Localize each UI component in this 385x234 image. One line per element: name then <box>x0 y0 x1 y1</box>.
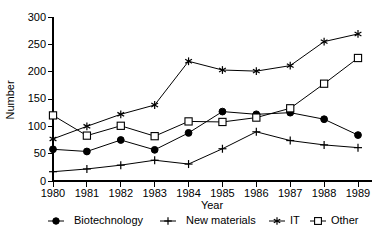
series-line-3 <box>53 58 358 136</box>
datapoint-0-9-marker-circle <box>355 132 362 139</box>
legend-item-new-materials[interactable]: New materials <box>160 214 256 226</box>
datapoint-2-8-marker-star <box>321 38 328 46</box>
datapoint-1-7-marker-plus <box>286 137 294 145</box>
datapoint-3-2-marker-square <box>117 122 124 129</box>
legend-marker-0-marker-circle <box>53 218 59 224</box>
datapoint-2-1-marker-star <box>84 122 91 130</box>
datapoint-1-4-marker-plus <box>185 160 193 168</box>
datapoint-1-1-marker-plus <box>83 165 91 173</box>
series-line-2 <box>53 34 358 139</box>
legend-label-1: New materials <box>186 214 256 226</box>
series-layer <box>49 30 362 176</box>
datapoint-0-4-marker-circle <box>185 129 192 136</box>
x-tick-label-1989: 1989 <box>346 187 370 199</box>
chart-container: Number 300 250 200 150 100 50 0 1980 19 <box>0 0 385 234</box>
x-tick-label-1981: 1981 <box>75 187 99 199</box>
legend-label-3: Other <box>331 214 359 226</box>
datapoint-1-5-marker-plus <box>218 145 226 153</box>
datapoint-3-5-marker-square <box>219 118 226 125</box>
x-tick-label-1985: 1985 <box>210 187 234 199</box>
datapoint-2-2-marker-star <box>117 110 124 118</box>
legend-marker-1-marker-plus <box>164 217 172 225</box>
datapoint-3-4-marker-square <box>185 118 192 125</box>
datapoint-0-1-marker-circle <box>83 148 90 155</box>
series-line-0 <box>53 112 358 152</box>
legend-item-it[interactable]: IT <box>269 214 300 226</box>
y-tick-label-100: 100 <box>28 120 46 132</box>
datapoint-3-1-marker-square <box>83 132 90 139</box>
datapoint-1-2-marker-plus <box>117 161 125 169</box>
datapoint-0-3-marker-circle <box>151 146 158 153</box>
y-tick-label-0: 0 <box>40 175 46 187</box>
series-other <box>49 54 361 139</box>
datapoint-2-0-marker-star <box>50 135 57 143</box>
series-new-materials <box>49 128 362 176</box>
x-tick-label-1986: 1986 <box>244 187 268 199</box>
y-tick-label-300: 300 <box>28 11 46 23</box>
datapoint-1-0-marker-plus <box>49 168 57 176</box>
y-tick-label-150: 150 <box>28 92 46 104</box>
y-tick-label-200: 200 <box>28 65 46 77</box>
datapoint-0-0-marker-circle <box>50 146 57 153</box>
datapoint-3-0-marker-square <box>49 112 56 119</box>
legend-marker-3-marker-square <box>315 218 322 225</box>
series-line-1 <box>53 132 358 172</box>
line-chart: Number 300 250 200 150 100 50 0 1980 19 <box>0 0 385 234</box>
datapoint-1-8-marker-plus <box>320 141 328 149</box>
x-tick-label-1980: 1980 <box>41 187 65 199</box>
legend-item-biotechnology[interactable]: Biotechnology <box>48 214 144 226</box>
y-tick-label-250: 250 <box>28 38 46 50</box>
x-tick-label-1987: 1987 <box>278 187 302 199</box>
y-axis-title: Number <box>4 80 16 119</box>
x-axis-title: Year <box>201 199 224 211</box>
x-tick-label-1988: 1988 <box>312 187 336 199</box>
datapoint-3-7-marker-square <box>287 105 294 112</box>
datapoint-3-9-marker-square <box>354 54 361 61</box>
x-tick-label-1982: 1982 <box>109 187 133 199</box>
datapoint-3-8-marker-square <box>321 80 328 87</box>
datapoint-1-3-marker-plus <box>151 156 159 164</box>
datapoint-0-5-marker-circle <box>219 108 226 115</box>
datapoint-3-3-marker-square <box>151 133 158 140</box>
datapoint-1-9-marker-plus <box>354 144 362 152</box>
legend-label-0: Biotechnology <box>74 214 144 226</box>
datapoint-3-6-marker-square <box>253 114 260 121</box>
x-tick-label-1984: 1984 <box>176 187 200 199</box>
x-tick-label-1983: 1983 <box>142 187 166 199</box>
legend-label-2: IT <box>290 214 300 226</box>
datapoint-0-8-marker-circle <box>321 116 328 123</box>
datapoint-1-6-marker-plus <box>252 128 260 136</box>
datapoint-0-2-marker-circle <box>117 137 124 144</box>
series-it <box>50 30 362 143</box>
legend-item-other[interactable]: Other <box>310 214 359 226</box>
series-biotechnology <box>50 108 362 155</box>
chart-legend: BiotechnologyNew materialsITOther <box>48 214 359 226</box>
datapoint-2-9-marker-star <box>355 30 362 38</box>
y-tick-label-50: 50 <box>34 147 46 159</box>
